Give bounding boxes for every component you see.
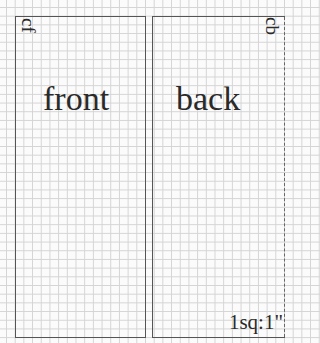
fold-line <box>284 17 285 337</box>
back-panel: cb back 1sq:1" <box>152 16 285 338</box>
front-panel: cf front <box>15 16 146 338</box>
center-front-label: cf <box>19 18 38 33</box>
center-back-label: cb <box>263 17 282 35</box>
back-panel-label: back <box>176 82 240 116</box>
front-panel-label: front <box>43 82 109 116</box>
scale-label: 1sq:1" <box>229 312 283 333</box>
